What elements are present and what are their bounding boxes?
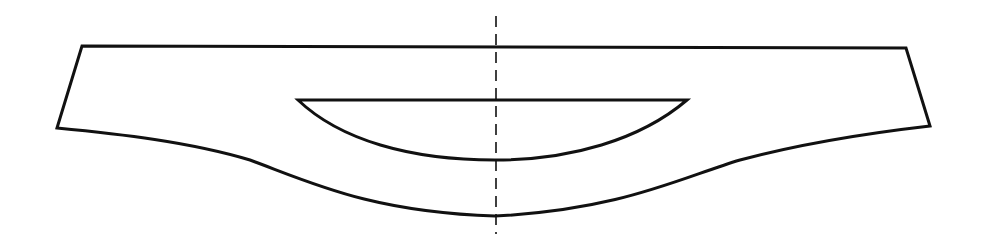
cross-section-diagram [0, 0, 989, 243]
background [0, 0, 989, 243]
